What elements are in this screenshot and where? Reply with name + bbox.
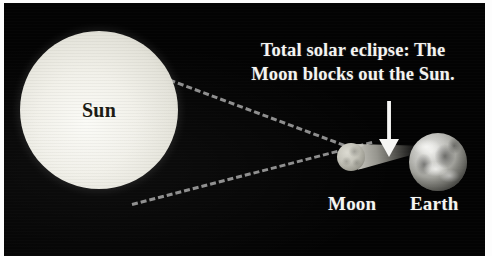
caption-line-1: Total solar eclipse: The: [222, 39, 484, 63]
moon-label: Moon: [328, 193, 376, 215]
moon-body: [337, 143, 365, 171]
arrow-head: [379, 139, 399, 157]
down-arrow-icon: [378, 101, 400, 157]
caption-text: Total solar eclipse: The Moon blocks out…: [222, 39, 484, 86]
eclipse-figure: Sun Total solar eclipse: The Moon blocks…: [0, 0, 492, 256]
sun-label: Sun: [20, 31, 178, 189]
night-sky-canvas: Sun Total solar eclipse: The Moon blocks…: [4, 3, 485, 256]
earth-terminator-shading: [409, 133, 467, 191]
earth-label: Earth: [410, 193, 459, 215]
arrow-shaft: [387, 101, 391, 143]
moon-crater-texture: [337, 143, 365, 171]
earth-continent-texture: [409, 133, 467, 191]
caption-line-2: Moon blocks out the Sun.: [222, 63, 484, 87]
earth-body: [409, 133, 467, 191]
